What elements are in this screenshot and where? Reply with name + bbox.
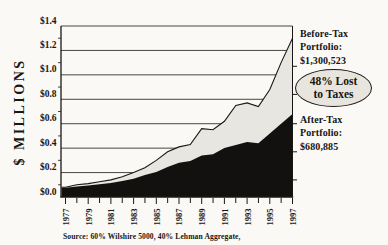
- x-tick-label: 1989: [197, 209, 207, 226]
- after-tax-annotation: After-Tax Portfolio: $680,885: [300, 113, 388, 153]
- x-tick-label: 1993: [243, 209, 253, 226]
- y-tick-label: $1.2: [40, 40, 57, 50]
- source-note: Source: 60% Wilshire 5000, 40% Lehman Ag…: [63, 232, 241, 241]
- after-tax-label-line1: After-Tax: [300, 113, 388, 126]
- x-tick-label: 1979: [84, 209, 94, 226]
- y-axis-labels: $1.4$1.2$1.0$0.8$0.6$0.4$0.2$0.0: [40, 16, 57, 197]
- before-tax-label-line2: Portfolio:: [300, 40, 388, 53]
- y-tick-label: $0.2: [40, 162, 57, 172]
- taxes-lost-callout: 48% Lost to Taxes: [295, 69, 372, 107]
- y-tick-label: $1.4: [40, 16, 57, 26]
- taxes-lost-line1: 48% Lost: [310, 75, 358, 88]
- chart-figure: $ MILLIONS 19771979198119831985198719891…: [0, 0, 388, 245]
- y-tick-label: $0.0: [40, 187, 57, 197]
- x-tick-label: 1987: [174, 208, 184, 226]
- y-tick-label: $0.4: [40, 138, 57, 148]
- y-tick-label: $1.0: [40, 64, 57, 74]
- x-tick-label: 1997: [288, 208, 298, 226]
- x-axis-ticks: [66, 198, 293, 204]
- after-tax-value: $680,885: [300, 140, 388, 153]
- x-axis-labels: 1977197919811983198519871989199119931995…: [61, 208, 298, 226]
- taxes-lost-line2: to Taxes: [314, 88, 354, 101]
- y-tick-label: $0.8: [40, 89, 57, 99]
- x-tick-label: 1985: [152, 209, 162, 226]
- x-tick-label: 1983: [129, 209, 139, 226]
- after-tax-label-line2: Portfolio:: [300, 126, 388, 139]
- x-tick-label: 1995: [265, 209, 275, 226]
- y-tick-label: $0.6: [40, 113, 57, 123]
- x-tick-label: 1977: [61, 208, 71, 226]
- before-tax-annotation: Before-Tax Portfolio: $1,300,523: [300, 27, 388, 67]
- before-tax-label-line1: Before-Tax: [300, 27, 388, 40]
- x-tick-label: 1991: [220, 209, 230, 226]
- before-tax-value: $1,300,523: [300, 54, 388, 67]
- x-tick-label: 1981: [106, 209, 116, 226]
